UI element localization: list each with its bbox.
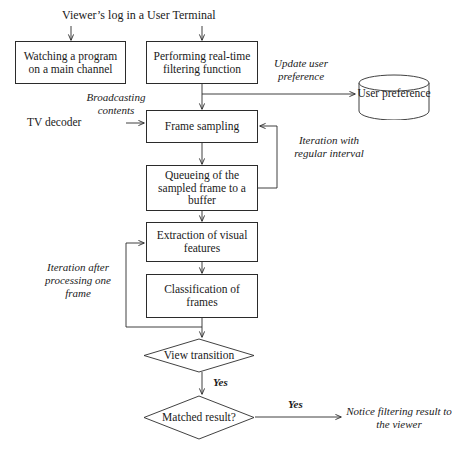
- node-classification-of-frames: Classification of frames: [146, 274, 258, 318]
- node-performing-filtering: Performing real-time filtering function: [146, 41, 258, 84]
- node-user-preference-label: User preference: [357, 87, 431, 100]
- node-extraction-visual-features: Extraction of visual features: [146, 222, 258, 262]
- node-watching-a-program: Watching a program on a main channel: [15, 41, 126, 84]
- label-notice-filtering-result: Notice filtering result to the viewer: [346, 405, 452, 431]
- flowchart-diagram: Viewer’s log in a User Terminal Watching…: [0, 0, 456, 451]
- node-matched-result-label: Matched result?: [143, 411, 255, 423]
- node-view-transition-label: View transition: [143, 349, 255, 361]
- node-user-preference-store: User preference: [357, 74, 431, 120]
- diagram-title: Viewer’s log in a User Terminal: [62, 8, 216, 23]
- label-yes-matched-result: Yes: [288, 398, 303, 410]
- node-view-transition: View transition: [143, 338, 255, 373]
- label-broadcasting-contents: Broadcasting contents: [76, 91, 156, 117]
- label-yes-view-transition: Yes: [213, 376, 228, 388]
- label-iteration-regular-interval: Iteration with regular interval: [286, 134, 372, 160]
- label-update-user-preference: Update user preference: [265, 57, 337, 83]
- edge-iteration-regular-interval: [258, 126, 277, 188]
- node-matched-result: Matched result?: [143, 395, 255, 440]
- node-queueing-sampled-frame: Queueing of the sampled frame to a buffe…: [146, 165, 258, 211]
- node-frame-sampling: Frame sampling: [146, 110, 258, 143]
- label-tv-decoder: TV decoder: [27, 116, 81, 128]
- label-iteration-after-processing: Iteration after processing one frame: [36, 261, 120, 300]
